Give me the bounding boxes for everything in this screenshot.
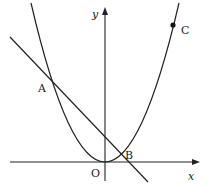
point-b-label: B: [125, 149, 133, 162]
origin-label: O: [91, 167, 100, 180]
x-axis-label: x: [188, 170, 195, 183]
x-axis-arrow-icon: [192, 159, 200, 165]
point-c-label: C: [181, 24, 189, 37]
y-axis-arrow-icon: [102, 7, 108, 15]
coordinate-diagram: y x O A B C: [0, 0, 209, 189]
y-axis-label: y: [91, 8, 99, 21]
point-c-dot: [170, 22, 175, 27]
y-axis: [102, 7, 108, 181]
point-a-label: A: [37, 82, 47, 95]
